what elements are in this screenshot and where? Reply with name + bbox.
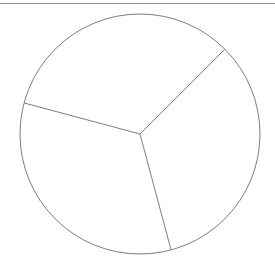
chart-canvas — [0, 0, 275, 264]
pie-chart-figure — [0, 0, 275, 264]
